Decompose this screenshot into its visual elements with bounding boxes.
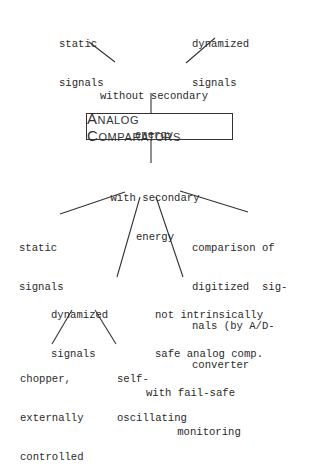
node-line: self- <box>117 373 187 386</box>
node-line: externally <box>20 412 84 425</box>
root-analog-comparators: Analog Comparators <box>86 113 233 140</box>
node-line: static <box>59 38 104 51</box>
node-chopper: chopper, externally controlled <box>20 347 84 464</box>
node-line: with secondary <box>90 192 220 205</box>
node-self-oscillating: self- oscillating <box>117 347 187 438</box>
node-line: oscillating <box>117 412 187 425</box>
node-line: dynamized <box>51 309 108 322</box>
node-line: chopper, <box>20 373 84 386</box>
node-line: dynamized <box>192 38 249 51</box>
node-line: controlled <box>20 451 84 464</box>
root-label: Analog Comparators <box>87 110 232 144</box>
node-line: without secondary <box>86 90 222 103</box>
node-line: static <box>19 242 64 255</box>
node-line: comparison of <box>192 242 287 255</box>
node-line: not intrinsically <box>144 309 274 322</box>
